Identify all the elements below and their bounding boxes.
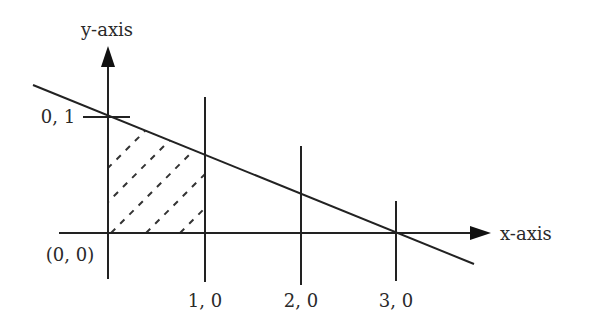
x-axis-label: x-axis bbox=[500, 223, 552, 244]
origin-label: (0, 0) bbox=[46, 244, 94, 265]
x-axis-arrow-icon bbox=[470, 226, 491, 240]
shaded-region bbox=[43, 105, 308, 233]
coordinate-diagram: y-axis x-axis (0, 0) 0, 1 1, 0 2, 0 3, 0 bbox=[0, 0, 590, 326]
x3-label: 3, 0 bbox=[379, 290, 413, 311]
y1-label: 0, 1 bbox=[41, 106, 75, 127]
x1-label: 1, 0 bbox=[188, 290, 222, 311]
sloped-line bbox=[33, 85, 474, 264]
x2-label: 2, 0 bbox=[284, 290, 318, 311]
y-axis-label: y-axis bbox=[80, 19, 133, 40]
y-axis-arrow-icon bbox=[101, 46, 115, 67]
